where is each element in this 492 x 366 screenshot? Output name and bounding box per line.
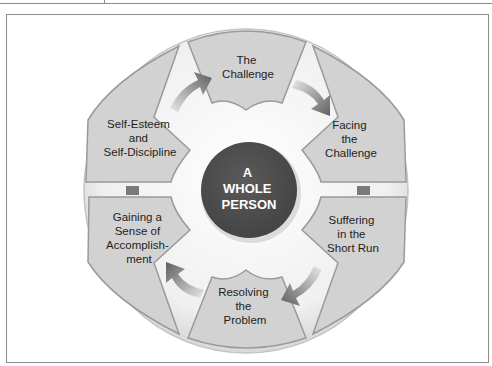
center-whole-person: A WHOLE PERSON xyxy=(201,142,297,238)
cycle-diagram: The Challenge Facing the Challenge Suffe… xyxy=(0,0,492,366)
connector-right xyxy=(357,186,370,195)
connector-left xyxy=(126,186,139,195)
